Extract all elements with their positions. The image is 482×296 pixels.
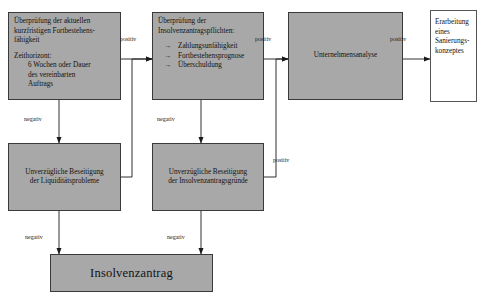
node-line: konzeptes <box>435 47 472 57</box>
edge-label-positiv-fixreasons: positiv <box>273 157 289 163</box>
node-check-insolvency-duties: Überprüfung der Insolvenzantragspflichte… <box>152 12 264 100</box>
edge-label-negativ-check1: negativ <box>24 116 42 122</box>
node-line: des vereinbarten <box>14 71 115 81</box>
node-insolvency-filing: Insolvenzantrag <box>50 254 213 292</box>
edge-label-positiv-check1: positiv <box>120 36 136 42</box>
edge-label-positiv-check2: positiv <box>255 36 271 42</box>
node-line: Zeithorizont: <box>14 52 115 62</box>
node-check-short-term-viability: Überprüfung der aktuellen kurzfristigen … <box>8 12 121 100</box>
node-line: der Insolvenzantragsgründe <box>153 177 263 187</box>
flowchart-canvas: Überprüfung der aktuellen kurzfristigen … <box>0 0 482 296</box>
arrow-right-icon: → <box>164 61 178 71</box>
node-label: Unternehmensanalyse <box>314 51 377 61</box>
arrow-right-icon: → <box>164 42 178 52</box>
node-line: kurzfristigen Fortbestehens- <box>14 27 115 37</box>
bullet-item: →Zahlungsunfähigkeit <box>158 42 258 52</box>
edge-label-negativ-fixliquidity: negativ <box>25 234 43 240</box>
node-line: der Liquiditätsprobleme <box>9 177 120 187</box>
bullet-item: →Überschuldung <box>158 61 258 71</box>
bullet-label: Überschuldung <box>178 61 222 69</box>
node-label: Insolvenzantrag <box>90 265 173 282</box>
node-line: Auftrags <box>14 80 115 90</box>
node-line: Sanierungs- <box>435 37 472 47</box>
node-line: 6 Wochen oder Dauer <box>14 61 115 71</box>
node-line: Unverzügliche Beseitigung <box>9 168 120 178</box>
node-restructuring-concept: Erarbeitung eines Sanierungs- konzeptes <box>430 10 477 102</box>
node-line: Insolvenzantragspflichten: <box>158 27 258 37</box>
bullet-label: Fortbestehensprognose <box>178 52 244 60</box>
node-line: eines <box>435 28 472 38</box>
node-fix-liquidity-problems: Unverzügliche Beseitigung der Liquidität… <box>8 143 121 211</box>
edge-label-positiv-analysis: positiv <box>390 36 406 42</box>
node-line: Überprüfung der <box>158 17 258 27</box>
edge-fixliquidity-feedback-to-check2 <box>121 59 152 177</box>
node-line: fähigkeit <box>14 36 115 46</box>
node-company-analysis: Unternehmensanalyse <box>288 12 403 100</box>
bullet-item: →Fortbestehensprognose <box>158 52 258 62</box>
edge-label-negativ-check2: negativ <box>157 116 175 122</box>
node-fix-insolvency-reasons: Unverzügliche Beseitigung der Insolvenza… <box>152 143 264 211</box>
node-line: Überprüfung der aktuellen <box>14 17 115 27</box>
edge-label-negativ-fixreasons: negativ <box>167 234 185 240</box>
node-line: Erarbeitung <box>435 18 472 28</box>
bullet-label: Zahlungsunfähigkeit <box>178 42 237 50</box>
arrow-right-icon: → <box>164 52 178 62</box>
node-line: Unverzügliche Beseitigung <box>153 168 263 178</box>
